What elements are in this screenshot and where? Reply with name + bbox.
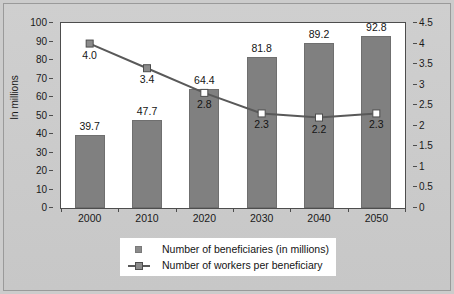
y-tick-right: 1.5 bbox=[419, 140, 433, 152]
legend-label-workers: Number of workers per beneficiary bbox=[162, 259, 322, 271]
line-value-label: 2.8 bbox=[178, 98, 230, 110]
x-tick-mark bbox=[405, 208, 406, 212]
y-tick-left: 90 bbox=[36, 36, 47, 48]
y-tick-mark-left bbox=[49, 22, 53, 23]
y-axis-left-ticks: 0102030405060708090100 bbox=[20, 22, 54, 209]
y-tick-left: 60 bbox=[36, 91, 47, 103]
y-tick-left: 50 bbox=[36, 110, 47, 122]
chart-legend: Number of beneficiaries (in millions) Nu… bbox=[120, 238, 336, 276]
y-tick-mark-left bbox=[49, 59, 53, 60]
y-tick-left: 70 bbox=[36, 73, 47, 85]
line-value-label: 2.3 bbox=[350, 118, 402, 130]
x-tick-label: 2040 bbox=[293, 212, 345, 224]
y-tick-mark-right bbox=[413, 166, 417, 167]
y-tick-right: 3.5 bbox=[419, 58, 433, 70]
y-axis-title-left: In millions bbox=[9, 58, 20, 138]
bar-swatch-icon bbox=[135, 246, 142, 253]
y-tick-mark-right bbox=[413, 104, 417, 105]
line-marker bbox=[201, 89, 208, 96]
y-tick-left: 30 bbox=[36, 147, 47, 159]
line-marker bbox=[258, 110, 265, 117]
x-tick-mark bbox=[176, 208, 177, 212]
line-marker bbox=[86, 40, 93, 47]
x-tick-label: 2010 bbox=[121, 212, 173, 224]
y-tick-mark-right bbox=[413, 125, 417, 126]
x-tick-label: 2030 bbox=[236, 212, 288, 224]
line-marker bbox=[316, 114, 323, 121]
y-tick-left: 10 bbox=[36, 184, 47, 196]
x-tick-label: 2020 bbox=[178, 212, 230, 224]
y-tick-mark-left bbox=[49, 152, 53, 153]
y-tick-left: 80 bbox=[36, 54, 47, 66]
line-value-label: 3.4 bbox=[121, 73, 173, 85]
y-tick-right: 0 bbox=[419, 202, 425, 214]
legend-item-beneficiaries: Number of beneficiaries (in millions) bbox=[120, 241, 336, 257]
y-tick-mark-right bbox=[413, 63, 417, 64]
bar-value-label: 81.8 bbox=[236, 42, 288, 54]
y-axis-right-ticks: 00.511.522.533.544.5 bbox=[412, 22, 446, 209]
y-tick-right: 3 bbox=[419, 79, 425, 91]
x-tick-label: 2000 bbox=[64, 212, 116, 224]
y-tick-mark-left bbox=[49, 133, 53, 134]
line-marker bbox=[373, 110, 380, 117]
x-tick-mark bbox=[61, 208, 62, 212]
y-tick-mark-left bbox=[49, 170, 53, 171]
y-tick-mark-left bbox=[49, 189, 53, 190]
y-tick-right: 4 bbox=[419, 38, 425, 50]
y-tick-mark-left bbox=[49, 78, 53, 79]
y-tick-mark-left bbox=[49, 207, 53, 208]
y-tick-left: 20 bbox=[36, 165, 47, 177]
bar-value-label: 39.7 bbox=[64, 120, 116, 132]
bar-value-label: 89.2 bbox=[293, 28, 345, 40]
y-tick-mark-left bbox=[49, 96, 53, 97]
line-marker-icon bbox=[135, 262, 143, 270]
x-axis-ticks: 200020102020203020402050 bbox=[60, 212, 406, 228]
y-tick-mark-right bbox=[413, 207, 417, 208]
y-tick-right: 2 bbox=[419, 120, 425, 132]
x-tick-mark bbox=[290, 208, 291, 212]
line-value-label: 2.3 bbox=[236, 118, 288, 130]
plot-inner: 39.747.764.481.889.292.84.03.42.82.32.22… bbox=[61, 23, 405, 208]
y-tick-mark-right bbox=[413, 84, 417, 85]
y-tick-left: 0 bbox=[41, 202, 47, 214]
x-tick-mark bbox=[118, 208, 119, 212]
y-tick-mark-right bbox=[413, 186, 417, 187]
y-tick-left: 100 bbox=[30, 17, 47, 29]
bar-value-label: 47.7 bbox=[121, 105, 173, 117]
x-tick-mark bbox=[233, 208, 234, 212]
legend-label-beneficiaries: Number of beneficiaries (in millions) bbox=[162, 243, 329, 255]
x-tick-label: 2050 bbox=[350, 212, 402, 224]
x-tick-mark bbox=[348, 208, 349, 212]
y-tick-right: 0.5 bbox=[419, 181, 433, 193]
plot-area: 39.747.764.481.889.292.84.03.42.82.32.22… bbox=[60, 22, 406, 209]
y-tick-mark-left bbox=[49, 41, 53, 42]
line-value-label: 2.2 bbox=[293, 123, 345, 135]
y-tick-mark-left bbox=[49, 115, 53, 116]
bar-value-label: 64.4 bbox=[178, 74, 230, 86]
line-value-label: 4.0 bbox=[64, 49, 116, 61]
y-tick-right: 2.5 bbox=[419, 99, 433, 111]
legend-item-workers: Number of workers per beneficiary bbox=[120, 257, 336, 273]
legend-key-line bbox=[120, 258, 162, 272]
bar-value-label: 92.8 bbox=[350, 21, 402, 33]
y-tick-right: 4.5 bbox=[419, 17, 433, 29]
y-tick-mark-right bbox=[413, 145, 417, 146]
y-tick-mark-right bbox=[413, 43, 417, 44]
line-marker bbox=[144, 65, 151, 72]
y-tick-mark-right bbox=[413, 22, 417, 23]
legend-key-bar bbox=[120, 242, 162, 256]
y-tick-left: 40 bbox=[36, 128, 47, 140]
chart-figure: In millions 0102030405060708090100 00.51… bbox=[0, 0, 454, 294]
y-tick-right: 1 bbox=[419, 161, 425, 173]
